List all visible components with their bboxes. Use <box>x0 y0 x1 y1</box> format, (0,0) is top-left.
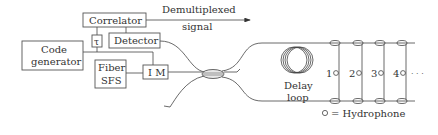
hydrophone-icon <box>401 71 406 76</box>
hydrophone-label-1: 1 <box>326 68 332 79</box>
tau-delay-block: τ <box>92 35 102 47</box>
delay-loop-label-1: Delay <box>284 80 313 91</box>
diagram-canvas: Delay loop 1 2 3 4 · · · <box>0 0 438 135</box>
code-generator-block: Code generator <box>22 41 83 70</box>
fiber-sfs-block: Fiber SFS <box>95 60 126 88</box>
hydrophone-label-4: 4 <box>393 68 399 79</box>
tau-label: τ <box>94 37 99 47</box>
correlator-block: Correlator <box>83 13 146 27</box>
intensity-modulator-block: I M <box>143 65 168 79</box>
code-generator-label-1: Code <box>41 44 67 55</box>
delay-loop-coil-icon <box>281 47 313 73</box>
legend-text: = Hydrophone <box>331 108 405 119</box>
fiber-coupler <box>202 70 224 79</box>
hydrophone-label-3: 3 <box>371 68 377 79</box>
delay-loop-label-2: loop <box>287 92 309 103</box>
hydrophone-icon <box>379 71 384 76</box>
hydrophone-icon <box>357 71 362 76</box>
im-label: I M <box>148 67 165 78</box>
correlator-label: Correlator <box>89 15 142 26</box>
fiber-sfs-label-1: Fiber <box>98 62 125 73</box>
terminated-fiber-left <box>164 76 204 107</box>
detector-label: Detector <box>114 35 159 46</box>
output-label-1: Demultiplexed <box>162 4 236 15</box>
ellipsis: · · · <box>411 69 424 78</box>
hydrophone-label-2: 2 <box>349 68 355 79</box>
lower-bus-fiber <box>222 77 415 101</box>
fiber-sfs-label-2: SFS <box>101 75 122 86</box>
hydrophone-icon <box>334 71 339 76</box>
upper-bus-fiber <box>222 43 415 71</box>
legend-hydrophone-icon <box>322 110 327 115</box>
detector-block: Detector <box>109 33 160 48</box>
output-label-2: signal <box>182 21 212 32</box>
code-generator-label-2: generator <box>31 56 81 67</box>
terminated-fiber-right <box>224 69 240 72</box>
